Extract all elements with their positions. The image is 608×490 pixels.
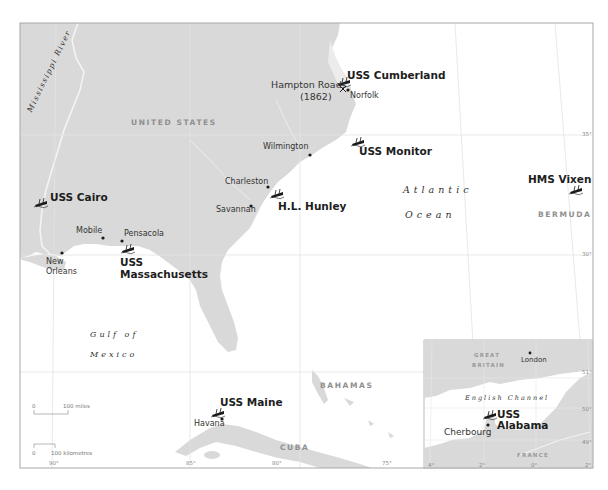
- lake-okeechobee: [248, 324, 256, 336]
- label-gulf-of: Gulf of: [90, 331, 138, 340]
- label-france: FRANCE: [517, 452, 549, 458]
- city-dot-wilmington: [308, 153, 311, 156]
- label-great-britain-2: BRITAIN: [472, 362, 505, 368]
- inset-lat-tick: 50°: [582, 406, 592, 412]
- scale-miles-label: 100 miles: [63, 403, 90, 409]
- label-norfolk: Norfolk: [350, 92, 379, 101]
- lon-tick: 90°: [49, 460, 59, 466]
- scale-miles-zero: 0: [32, 403, 36, 409]
- label-charleston: Charleston: [225, 178, 268, 187]
- label-uss-massachusetts-1: USS: [120, 257, 143, 269]
- label-uss-alabama-2: Alabama: [497, 420, 548, 432]
- label-ocean: Ocean: [405, 210, 456, 220]
- inset-lon-tick: 0°: [531, 462, 537, 468]
- scale-km-zero: 0: [32, 450, 36, 456]
- city-dot-london: [529, 352, 532, 355]
- inset-map-english-channel: [424, 340, 592, 468]
- scale-km-label: 100 kilometres: [51, 450, 92, 456]
- label-uss-cairo: USS Cairo: [50, 192, 108, 204]
- lon-tick: 80°: [272, 460, 282, 466]
- label-uss-massachusetts-2: Massachusetts: [120, 269, 208, 281]
- label-uss-cumberland: USS Cumberland: [347, 70, 445, 82]
- label-pensacola: Pensacola: [124, 230, 164, 239]
- label-hms-vixen: HMS Vixen: [528, 174, 591, 186]
- label-uss-maine: USS Maine: [220, 397, 283, 409]
- label-mobile: Mobile: [76, 227, 102, 236]
- city-dot-pensacola: [120, 239, 123, 242]
- label-london: London: [521, 357, 547, 365]
- label-united-states: UNITED STATES: [131, 119, 217, 127]
- label-new-orleans-1: New: [46, 258, 63, 267]
- label-hl-hunley: H.L. Hunley: [278, 201, 346, 213]
- label-great-britain-1: GREAT: [474, 352, 500, 358]
- label-savannah: Savannah: [216, 206, 256, 215]
- label-atlantic: Atlantic: [403, 185, 473, 195]
- land-isle-of-youth: [204, 451, 220, 459]
- inset-lat-tick: 51°: [582, 369, 592, 375]
- lat-tick: 30°: [582, 251, 592, 257]
- label-mexico: Mexico: [90, 351, 137, 360]
- lon-tick: 85°: [186, 460, 196, 466]
- inset-lon-tick: 4°: [428, 462, 434, 468]
- label-cuba: CUBA: [280, 444, 310, 452]
- label-bermuda: BERMUDA: [538, 211, 591, 219]
- city-dot-new-orleans: [60, 251, 63, 254]
- label-new-orleans-2: Orleans: [46, 268, 77, 277]
- label-uss-monitor: USS Monitor: [359, 146, 432, 158]
- inset-lon-tick: 2°: [479, 462, 485, 468]
- label-bahamas: BAHAMAS: [320, 382, 373, 390]
- label-hampton-roads: Hampton Roads: [271, 80, 347, 90]
- inset-lon-tick: 2°: [585, 462, 591, 468]
- label-english-channel: English Channel: [465, 395, 549, 402]
- label-hampton-roads-year: (1862): [300, 92, 332, 102]
- label-havana: Havana: [194, 420, 225, 429]
- city-dot-mobile: [101, 236, 104, 239]
- lat-tick: 35°: [582, 131, 592, 137]
- label-wilmington: Wilmington: [263, 143, 308, 152]
- lon-tick: 75°: [382, 460, 392, 466]
- label-cherbourg: Cherbourg: [444, 428, 491, 438]
- inset-lat-tick: 49°: [582, 439, 592, 445]
